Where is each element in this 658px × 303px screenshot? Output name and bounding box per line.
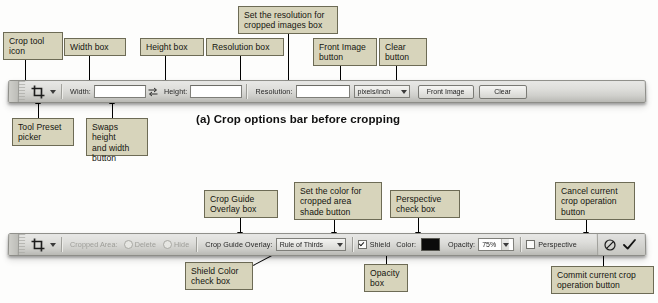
callout-clear-button: Clear button [379,38,427,66]
bar-gripper-2[interactable] [9,234,19,255]
crop-guide-overlay-select[interactable]: Rule of Thirds [276,238,346,251]
crop-guide-overlay-value: Rule of Thirds [280,241,323,248]
callout-front-image-button: Front Image button [313,38,377,66]
height-input[interactable] [190,85,242,98]
leader-resolution-units [288,34,289,82]
toolbar-separator-5 [352,237,354,252]
cropped-area-label: Cropped Area: [70,240,118,249]
tool-preset-picker[interactable] [48,85,57,99]
toolbar-separator-3 [61,237,63,252]
leader-height-box [165,56,166,82]
leader-crop-tool-icon [25,60,26,82]
callout-resolution-box: Resolution box [206,38,284,56]
leader-resolution-box [240,56,241,82]
leader-commit-crop-button [603,256,604,266]
front-image-button[interactable]: Front Image [417,85,473,99]
resolution-label: Resolution: [255,87,292,96]
chevron-down-icon [503,243,509,247]
checkbox-icon [526,240,535,249]
figure-canvas: Crop tool icon Width box Height box Reso… [0,0,658,303]
bar-gripper[interactable] [9,81,19,102]
callout-commit-crop-button: Commit current crop operation button [551,266,654,294]
chevron-down-icon [49,90,55,94]
crop-options-bar-before[interactable]: Width: Height: Resolution: pixels/inch F… [8,80,647,103]
opacity-label: Opacity: [448,240,475,249]
callout-crop-tool-icon: Crop tool icon [3,32,63,60]
callout-swap-button: Swaps height and width button [86,118,148,156]
bar-grip-dots[interactable] [19,81,25,102]
tool-preset-picker-2[interactable] [48,238,57,252]
callout-tool-preset-picker: Tool Preset picker [12,118,74,146]
caption-a: (a) Crop options bar before cropping [196,113,400,125]
callout-resolution-units: Set the resolution for cropped images bo… [238,6,338,34]
crop-action-buttons [597,234,645,255]
delete-label: Delete [135,240,157,249]
commit-crop-button[interactable] [623,239,636,251]
opacity-value: 75% [482,241,496,248]
toolbar-separator-2 [246,84,248,99]
resolution-units-value: pixels/inch [358,88,391,95]
toolbar-separator-6 [520,237,522,252]
hide-label: Hide [174,240,189,249]
callout-cancel-crop-button: Cancel current crop operation button [555,182,635,220]
bar-grip-dots-2[interactable] [19,234,25,255]
cancel-crop-button[interactable] [604,239,616,251]
opacity-input[interactable]: 75% [478,238,514,251]
chevron-down-icon [49,243,55,247]
callout-crop-guide-overlay: Crop Guide Overlay box [204,190,278,218]
toolbar-separator-4 [196,237,198,252]
leader-width-box [89,56,90,82]
perspective-checkbox[interactable]: Perspective [526,240,577,249]
swap-width-height-icon[interactable] [148,86,159,98]
crop-options-bar-during[interactable]: Cropped Area: Delete Hide Crop Guide Ove… [8,233,647,256]
opacity-stepper-arrow[interactable] [501,239,509,250]
leader-opacity-box [386,256,387,264]
callout-height-box: Height box [140,38,204,56]
clear-button[interactable]: Clear [478,85,526,99]
resolution-input[interactable] [296,85,350,98]
shield-checkbox[interactable]: Shield [358,240,391,249]
chevron-down-icon [401,90,407,94]
crop-guide-overlay-label: Crop Guide Overlay: [205,240,272,249]
callout-opacity-box: Opacity box [364,264,408,292]
callout-width-box: Width box [64,38,126,56]
leader-tool-preset-picker [38,103,39,118]
perspective-label: Perspective [538,240,577,249]
callout-shade-color-button: Set the color for cropped area shade but… [294,182,382,220]
cropped-area-delete-radio[interactable]: Delete [124,240,157,249]
radio-icon [124,240,133,249]
callout-perspective-checkbox: Perspective check box [390,190,460,218]
crop-tool-icon[interactable] [29,237,47,253]
width-label: Width: [70,87,91,96]
callout-shield-color-checkbox: Shield Color check box [185,262,253,290]
color-label: Color: [396,240,416,249]
radio-icon [163,240,172,249]
crop-tool-icon[interactable] [29,84,47,100]
checkbox-icon [358,240,367,249]
toolbar-separator [61,84,63,99]
resolution-units-select[interactable]: pixels/inch [354,85,410,98]
cropped-area-hide-radio[interactable]: Hide [163,240,189,249]
chevron-down-icon [337,243,343,247]
height-label: Height: [164,87,188,96]
shade-color-swatch[interactable] [421,238,440,251]
shield-label: Shield [370,240,391,249]
width-input[interactable] [94,85,146,98]
leader-swap-button [112,103,113,118]
